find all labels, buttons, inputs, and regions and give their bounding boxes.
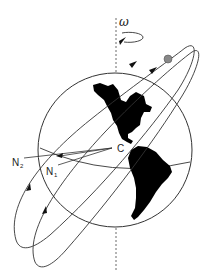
n2-label: N (12, 157, 19, 168)
center-label: C (117, 143, 124, 154)
orbit-arrow-icon (129, 61, 137, 68)
rotation-arrow-icon (119, 32, 143, 45)
orbit-arrow-icon (42, 206, 47, 214)
satellite (164, 55, 172, 63)
n1-label: N (46, 166, 53, 177)
orbit-diagram: ω C N 2 N 1 (0, 0, 213, 280)
orbit-arrow-icon (149, 67, 157, 74)
n2-subscript: 2 (20, 163, 24, 169)
omega-label: ω (119, 15, 129, 29)
